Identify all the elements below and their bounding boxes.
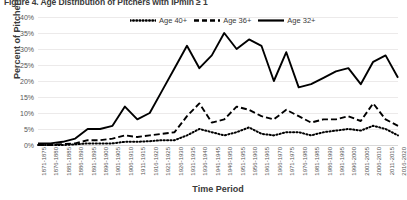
legend-label: Age 40+ — [159, 16, 187, 25]
legend-swatch-dashed — [194, 16, 220, 25]
x-tick-label: 1871-1875 — [41, 147, 47, 176]
x-tick-label: 2001-2005 — [364, 147, 370, 176]
x-tick-label: 1981-1985 — [314, 147, 320, 176]
legend-entry-age-32-[interactable]: Age 32+ — [258, 16, 315, 25]
x-tick-label: 1906-1910 — [128, 147, 134, 176]
y-tick-label: 20% — [20, 78, 34, 85]
x-tick-label: 1916-1920 — [153, 147, 159, 176]
y-tick-label: 30% — [20, 46, 34, 53]
y-tick-label: 15% — [20, 94, 34, 101]
x-tick-label: 1921-1925 — [165, 147, 171, 176]
x-axis-title: Time Period — [38, 184, 398, 194]
y-tick-label: 25% — [20, 62, 34, 69]
x-tick-label: 2011-2015 — [389, 147, 395, 175]
x-tick-label: 1896-1900 — [103, 147, 109, 176]
y-axis-tick-labels: 0%5%10%15%20%25%30%35%40% — [0, 17, 36, 145]
y-tick-label: 0% — [24, 142, 34, 149]
x-tick-label: 1971-1975 — [289, 147, 295, 176]
legend-entry-age-40-[interactable]: Age 40+ — [130, 16, 187, 25]
x-axis-tick-labels: 1871-18751876-18801881-18851886-18901891… — [38, 147, 398, 183]
x-tick-label: 1986-1990 — [327, 147, 333, 176]
y-tick-label: 40% — [20, 14, 34, 21]
x-tick-label: 1961-1965 — [264, 147, 270, 176]
x-tick-label: 1911-1915 — [140, 147, 146, 175]
legend-entry-age-36-[interactable]: Age 36+ — [194, 16, 251, 25]
x-tick-label: 1876-1880 — [53, 147, 59, 176]
x-tick-label: 1976-1980 — [302, 147, 308, 176]
x-tick-label: 1941-1945 — [215, 147, 221, 176]
figure-title: Figure 4. Age Distribution of Pitchers w… — [4, 0, 208, 7]
x-tick-label: 1886-1890 — [78, 147, 84, 176]
y-tick-label: 5% — [24, 126, 34, 133]
series-line-age-32- — [38, 33, 398, 143]
x-tick-label: 1881-1885 — [66, 147, 72, 176]
x-tick-label: 1931-1935 — [190, 147, 196, 176]
x-tick-label: 1966-1970 — [277, 147, 283, 176]
x-tick-label: 1936-1940 — [202, 147, 208, 176]
x-tick-label: 2006-2010 — [376, 147, 382, 176]
x-tick-label: 1901-1905 — [115, 147, 121, 176]
legend: Age 40+Age 36+Age 32+ — [130, 16, 315, 25]
x-tick-label: 1991-1995 — [339, 147, 345, 176]
x-tick-label: 1951-1955 — [240, 147, 246, 176]
x-tick-label: 1996-2000 — [351, 147, 357, 176]
x-tick-label: 1891-1895 — [91, 147, 97, 176]
x-tick-label: 1956-1960 — [252, 147, 258, 176]
x-tick-label: 2016-2020 — [401, 147, 407, 176]
legend-label: Age 32+ — [287, 16, 315, 25]
legend-swatch-dotted — [130, 16, 156, 25]
y-tick-label: 35% — [20, 30, 34, 37]
legend-swatch-solid — [258, 16, 284, 25]
series-line-age-36- — [38, 103, 398, 145]
series-lines — [38, 17, 398, 145]
y-tick-label: 10% — [20, 110, 34, 117]
x-tick-label: 1926-1930 — [178, 147, 184, 176]
x-tick-label: 1946-1950 — [227, 147, 233, 176]
legend-label: Age 36+ — [223, 16, 251, 25]
plot-area — [38, 17, 398, 145]
